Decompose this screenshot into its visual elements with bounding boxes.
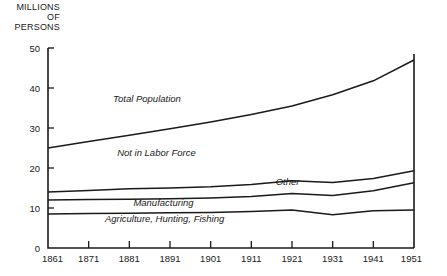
population-labor-force-chart: MILLIONS OF PERSONS 01020304050 18611871… <box>0 0 447 276</box>
series-label: Other <box>276 176 301 187</box>
series-annotations: Total PopulationNot in Labor ForceOtherM… <box>104 93 300 224</box>
series-label: Manufacturing <box>133 197 194 208</box>
x-tick-label: 1931 <box>322 253 343 264</box>
series-label: Total Population <box>113 93 181 104</box>
y-tick-label: 10 <box>29 203 40 214</box>
x-tick-label: 1921 <box>281 253 302 264</box>
y-tick-label: 0 <box>35 243 40 254</box>
x-tick-label: 1881 <box>119 253 140 264</box>
y-axis-title: MILLIONS OF PERSONS <box>0 2 60 32</box>
series-boundary-line <box>48 171 414 192</box>
y-tick-label: 20 <box>29 163 40 174</box>
x-tick-label: 1901 <box>200 253 221 264</box>
series-lines <box>48 60 414 215</box>
x-tick-label: 1871 <box>78 253 99 264</box>
axes <box>48 48 414 248</box>
x-tick-label: 1861 <box>42 253 63 264</box>
y-tick-label: 50 <box>29 43 40 54</box>
chart-plot-area: 01020304050 1861187118811891190119111921… <box>0 0 447 276</box>
y-tick-label: 40 <box>29 83 40 94</box>
series-boundary-line <box>48 60 414 148</box>
x-axis-ticks: 1861187118811891190119111921193119411951 <box>42 241 422 264</box>
series-boundary-line <box>48 210 414 215</box>
series-label: Agriculture, Hunting, Fishing <box>104 213 225 224</box>
series-label: Not in Labor Force <box>117 147 196 158</box>
x-tick-label: 1911 <box>241 253 261 264</box>
x-tick-label: 1941 <box>363 253 384 264</box>
y-tick-label: 30 <box>29 123 40 134</box>
x-tick-label: 1951 <box>401 253 422 264</box>
axis-lines <box>48 48 414 248</box>
x-tick-label: 1891 <box>159 253 180 264</box>
